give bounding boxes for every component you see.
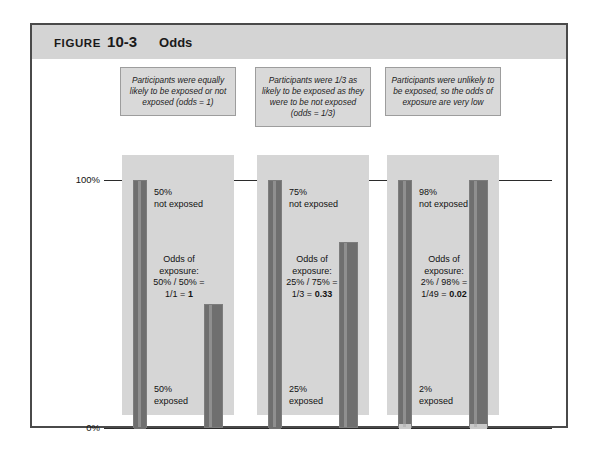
exposed-label: 25% exposed: [289, 384, 323, 407]
odds-title-2: exposure:: [292, 266, 332, 276]
exposed-bar: [469, 180, 488, 428]
figure-title: Odds: [159, 35, 192, 50]
exposed-label: 50% exposed: [154, 384, 188, 407]
plot-area: 100% 0% Participants were equally likely…: [32, 59, 566, 428]
panel-caption: Participants were equally likely to be e…: [120, 67, 236, 116]
bar-highlight: [209, 305, 212, 427]
total-stack-bar: [133, 180, 147, 428]
figure-page: FIGURE10-3Odds 100% 0% Participants were…: [0, 0, 594, 449]
panel-odds-1: Participants were equally likely to be e…: [120, 59, 236, 428]
odds-result-prefix: 1/1 =: [165, 289, 188, 299]
figure-header: FIGURE10-3Odds: [32, 25, 566, 59]
exposed-bar-fill: [470, 181, 487, 424]
not-exposed-pct: 75%: [289, 187, 307, 197]
bar-highlight: [273, 181, 276, 427]
exposed-bar-base: [470, 424, 487, 429]
exposed-pct: 25%: [289, 384, 307, 394]
exposed-text: exposed: [419, 396, 453, 406]
odds-annotation: Odds of exposure: 2% / 98% = 1/49 = 0.02: [405, 254, 483, 300]
bar-highlight: [474, 181, 477, 427]
odds-title-2: exposure:: [424, 266, 464, 276]
panel-odds-2: Participants were 1/3 as likely to be ex…: [255, 59, 371, 428]
figure-number: 10-3: [107, 33, 137, 50]
odds-title-1: Odds of: [428, 254, 460, 264]
not-exposed-pct: 50%: [154, 187, 172, 197]
exposed-bar-fill: [205, 305, 222, 427]
not-exposed-label: 75% not exposed: [289, 187, 338, 210]
odds-result-prefix: 1/49 =: [421, 289, 449, 299]
odds-result-value: 0.02: [449, 289, 467, 299]
figure-header-text: FIGURE10-3Odds: [54, 33, 192, 51]
odds-result-value: 0.33: [315, 289, 333, 299]
odds-ratio: 2% / 98% =: [421, 277, 467, 287]
odds-ratio: 50% / 50% =: [153, 277, 204, 287]
panel-odds-3: Participants were unlikely to be exposed…: [385, 59, 501, 428]
odds-annotation: Odds of exposure: 25% / 75% = 1/3 = 0.33: [273, 254, 351, 300]
total-stack-bar: [398, 180, 412, 428]
exposed-bar: [204, 304, 223, 428]
odds-result-value: 1: [188, 289, 193, 299]
not-exposed-label: 98% not exposed: [419, 187, 468, 210]
exposed-text: exposed: [154, 396, 188, 406]
bar-highlight: [138, 181, 141, 427]
not-exposed-text: not exposed: [289, 199, 338, 209]
not-exposed-text: not exposed: [419, 199, 468, 209]
odds-result-prefix: 1/3 =: [292, 289, 315, 299]
not-exposed-text: not exposed: [154, 199, 203, 209]
not-exposed-pct: 98%: [419, 187, 437, 197]
axis-tick-100: 100%: [58, 174, 100, 185]
odds-title-1: Odds of: [296, 254, 328, 264]
figure-frame: FIGURE10-3Odds 100% 0% Participants were…: [30, 23, 568, 428]
total-stack-bar: [268, 180, 282, 428]
panel-caption: Participants were 1/3 as likely to be ex…: [255, 67, 371, 127]
odds-annotation: Odds of exposure: 50% / 50% = 1/1 = 1: [140, 254, 218, 300]
not-exposed-label: 50% not exposed: [154, 187, 203, 210]
exposed-pct: 2%: [419, 384, 432, 394]
odds-title-2: exposure:: [159, 266, 199, 276]
exposed-pct: 50%: [154, 384, 172, 394]
exposed-label: 2% exposed: [419, 384, 453, 407]
axis-tick-0: 0%: [58, 422, 100, 433]
odds-title-1: Odds of: [163, 254, 195, 264]
exposed-text: exposed: [289, 396, 323, 406]
panel-caption: Participants were unlikely to be exposed…: [385, 67, 501, 116]
figure-label: FIGURE: [54, 37, 101, 49]
bar-highlight: [403, 181, 406, 427]
odds-ratio: 25% / 75% =: [286, 277, 337, 287]
